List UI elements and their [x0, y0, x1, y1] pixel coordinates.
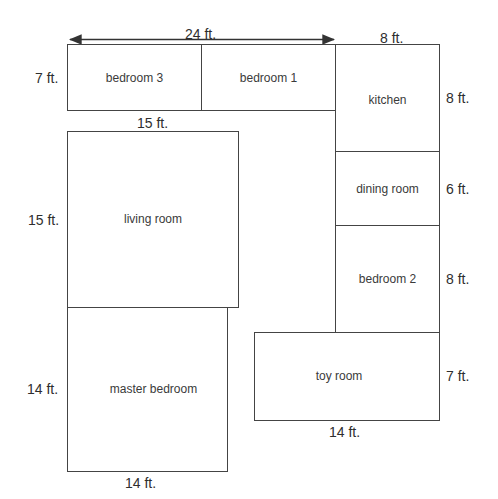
- room-master-bedroom: master bedroom: [67, 307, 228, 472]
- room-label: master bedroom: [110, 382, 197, 396]
- room-label: bedroom 1: [240, 71, 297, 85]
- dim-toy-room-width: 14 ft.: [329, 425, 360, 439]
- room-label: dining room: [356, 182, 419, 196]
- room-living-room: living room: [67, 131, 239, 308]
- dim-bedroom-2-height: 8 ft.: [446, 272, 469, 286]
- room-bedroom-2: bedroom 2: [335, 225, 440, 333]
- overall-width-label: 24 ft.: [185, 27, 216, 41]
- dim-living-room-height: 15 ft.: [28, 213, 59, 227]
- dim-kitchen-width: 8 ft.: [380, 31, 403, 45]
- room-label: bedroom 3: [106, 71, 163, 85]
- room-label: kitchen: [368, 93, 406, 107]
- room-label: living room: [124, 212, 182, 226]
- dim-kitchen-height: 8 ft.: [446, 91, 469, 105]
- dim-master-bedroom-height: 14 ft.: [27, 382, 58, 396]
- dim-toy-room-height: 7 ft.: [446, 369, 469, 383]
- dim-top-row-height: 7 ft.: [35, 71, 58, 85]
- room-kitchen: kitchen: [335, 44, 440, 152]
- room-label: toy room: [316, 369, 363, 383]
- room-dining-room: dining room: [335, 151, 440, 226]
- dim-living-room-width: 15 ft.: [137, 116, 168, 130]
- room-bedroom-1: bedroom 1: [201, 44, 336, 111]
- room-bedroom-3: bedroom 3: [67, 44, 202, 111]
- room-toy-room: toy room: [254, 332, 440, 421]
- room-label: bedroom 2: [359, 272, 416, 286]
- dim-dining-room-height: 6 ft.: [446, 182, 469, 196]
- dim-master-bedroom-width: 14 ft.: [125, 476, 156, 490]
